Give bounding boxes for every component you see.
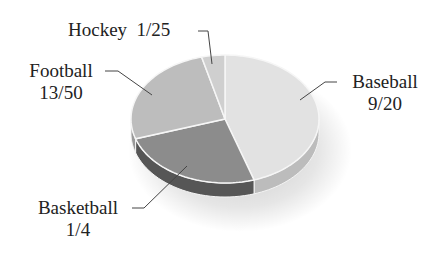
label-baseball-name: Baseball: [340, 71, 430, 93]
label-basketball: Basketball 1/4: [28, 197, 128, 241]
label-baseball: Baseball 9/20: [340, 71, 430, 115]
label-hockey-value: 1/25: [137, 19, 171, 40]
label-basketball-value: 1/4: [28, 219, 128, 241]
label-football-value: 13/50: [18, 82, 104, 104]
label-baseball-value: 9/20: [340, 93, 430, 115]
label-football-name: Football: [18, 60, 104, 82]
label-basketball-name: Basketball: [28, 197, 128, 219]
pie-slices: [131, 55, 319, 183]
label-football: Football 13/50: [18, 60, 104, 104]
label-hockey: Hockey 1/25: [68, 19, 170, 41]
label-hockey-name: Hockey: [68, 19, 127, 40]
